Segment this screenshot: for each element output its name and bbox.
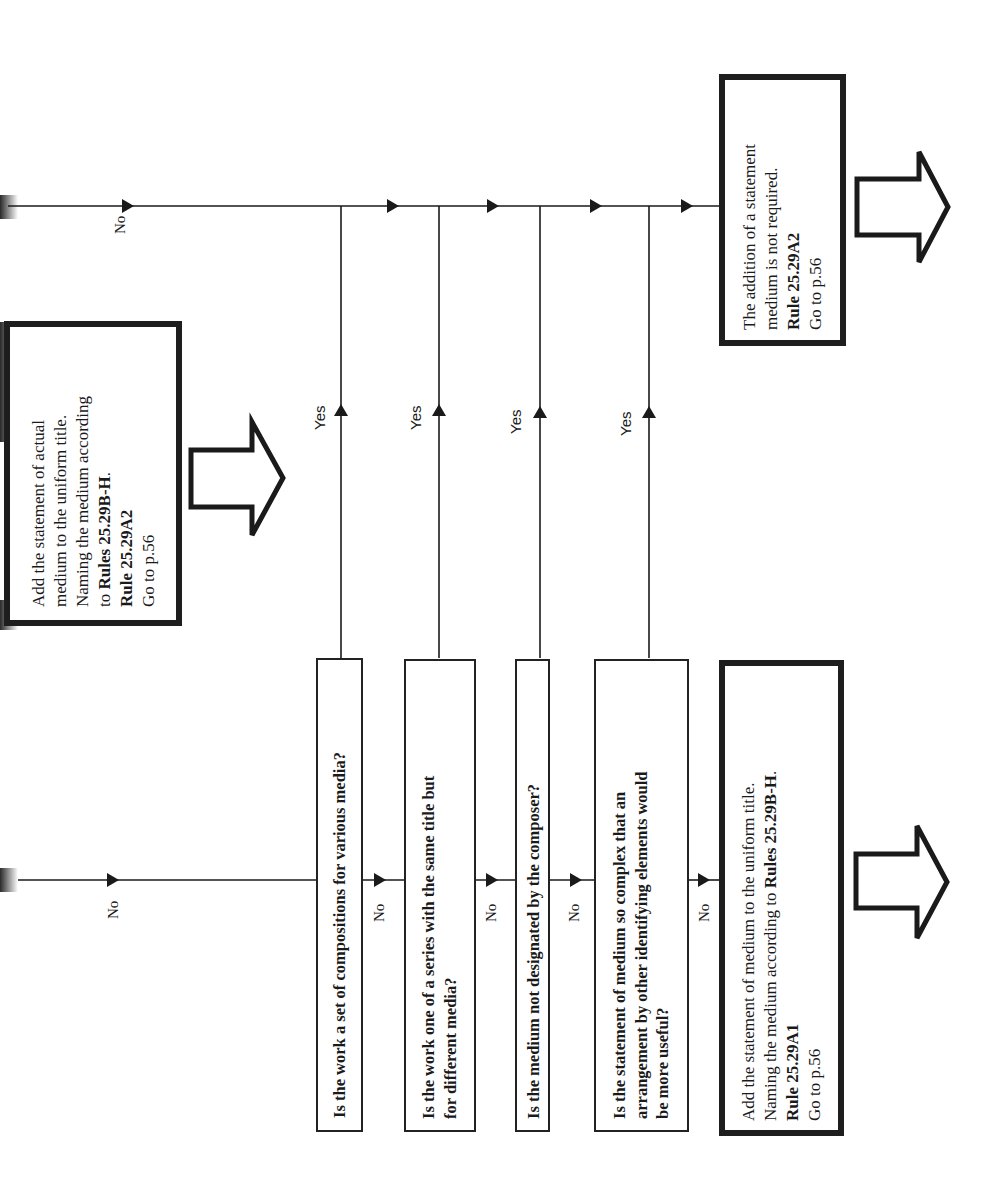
question-box-4: Is the statement of medium so complex th… bbox=[594, 659, 689, 1132]
flowchart-page: No No No No No No Yes Yes Yes Yes Add th… bbox=[0, 0, 1002, 1193]
rule-reference: Rule 25.29A2 bbox=[116, 396, 138, 607]
yes-label: Yes bbox=[407, 406, 424, 430]
text-line: Add the statement of medium to the unifo… bbox=[738, 771, 760, 1121]
no-label: No bbox=[696, 904, 713, 922]
text-segment: . bbox=[95, 472, 114, 476]
text-segment: to bbox=[95, 590, 114, 607]
question-text: Is the work one of a series with the sam… bbox=[418, 776, 461, 1119]
next-page-arrow-top bbox=[857, 152, 948, 262]
text-line: Is the work a set of compositions for va… bbox=[329, 752, 351, 1118]
next-page-arrow-bottom bbox=[856, 826, 947, 938]
text-line: medium to the uniform title. bbox=[50, 396, 72, 607]
text-segment: . bbox=[761, 771, 780, 775]
text-line: Add the statement of actual bbox=[28, 396, 50, 607]
no-label: No bbox=[105, 901, 122, 919]
goto-page: Go to p.56 bbox=[804, 771, 826, 1121]
text-line: Is the statement of medium so complex th… bbox=[609, 771, 631, 1119]
question-text: Is the statement of medium so complex th… bbox=[609, 771, 674, 1119]
goto-page: Go to p.56 bbox=[138, 396, 160, 607]
no-label: No bbox=[566, 904, 583, 922]
text-line: Naming the medium according to Rules 25.… bbox=[760, 771, 782, 1121]
yes-label: Yes bbox=[617, 412, 634, 436]
rule-reference: Rule 25.29A2 bbox=[783, 144, 805, 330]
rule-reference: Rule 25.29A1 bbox=[782, 771, 804, 1121]
question-box-2: Is the work one of a series with the sam… bbox=[404, 659, 476, 1132]
text-line: for different media? bbox=[440, 776, 462, 1119]
question-text: Is the work a set of compositions for va… bbox=[329, 752, 351, 1118]
text-line: arrangement by other identifying element… bbox=[631, 771, 653, 1119]
no-label: No bbox=[371, 904, 388, 922]
text-line: Is the medium not designated by the comp… bbox=[523, 784, 545, 1119]
outcome-text: Add the statement of medium to the unifo… bbox=[738, 771, 826, 1121]
next-page-arrow-left bbox=[191, 422, 283, 535]
question-text: Is the medium not designated by the comp… bbox=[523, 784, 545, 1119]
outcome-not-required: The addition of a statement medium is no… bbox=[719, 74, 846, 346]
rule-reference: Rules 25.29B-H bbox=[95, 476, 114, 589]
text-line: Is the work one of a series with the sam… bbox=[418, 776, 440, 1119]
text-line: to Rules 25.29B-H. bbox=[94, 396, 116, 607]
text-segment: Naming the medium according to bbox=[761, 888, 780, 1121]
text-line: Naming the medium according bbox=[72, 396, 94, 607]
outcome-text: Add the statement of actual medium to th… bbox=[28, 396, 160, 607]
outcome-text: The addition of a statement medium is no… bbox=[739, 144, 827, 330]
yes-label: Yes bbox=[311, 406, 328, 430]
yes-label: Yes bbox=[507, 410, 524, 434]
no-label: No bbox=[112, 216, 129, 234]
question-box-3: Is the medium not designated by the comp… bbox=[515, 659, 550, 1132]
text-line: The addition of a statement bbox=[739, 144, 761, 330]
goto-page: Go to p.56 bbox=[805, 144, 827, 330]
question-box-1: Is the work a set of compositions for va… bbox=[316, 658, 363, 1132]
outcome-add-actual-medium: Add the statement of actual medium to th… bbox=[4, 321, 182, 626]
outcome-add-medium: Add the statement of medium to the unifo… bbox=[719, 660, 844, 1136]
text-line: be more useful? bbox=[652, 771, 674, 1119]
no-label: No bbox=[483, 904, 500, 922]
text-line: medium is not required. bbox=[761, 144, 783, 330]
rule-reference: Rules 25.29B-H bbox=[761, 775, 780, 888]
